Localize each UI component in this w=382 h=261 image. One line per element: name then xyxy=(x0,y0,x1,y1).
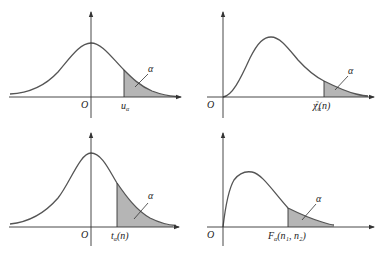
quantile-label: uα xyxy=(121,100,130,112)
tail-area-normal xyxy=(124,70,173,97)
quantile-label: Fα(n₁, n₂) xyxy=(267,230,307,242)
panel-chi-square: α O χα2(n) xyxy=(207,12,374,118)
origin-label: O xyxy=(207,229,214,240)
alpha-label: α xyxy=(148,63,154,74)
alpha-leader-line xyxy=(335,76,348,90)
quantile-label: tα(n) xyxy=(111,230,129,242)
quantile-label: χα2(n) xyxy=(312,100,331,112)
panel-normal: α O uα xyxy=(9,12,181,118)
chi-square-density-curve xyxy=(223,37,368,97)
origin-label: O xyxy=(207,99,214,110)
distribution-diagrams: α O uα α O χα2(n) α O tα(n) α O Fα(n xyxy=(0,0,382,261)
origin-label: O xyxy=(81,99,88,110)
alpha-label: α xyxy=(348,65,354,76)
origin-label: O xyxy=(81,229,88,240)
panel-f: α O Fα(n₁, n₂) xyxy=(207,133,374,246)
alpha-label: α xyxy=(316,193,322,204)
alpha-label: α xyxy=(148,190,154,201)
panel-t: α O tα(n) xyxy=(9,133,179,246)
tail-area-t xyxy=(117,183,173,227)
